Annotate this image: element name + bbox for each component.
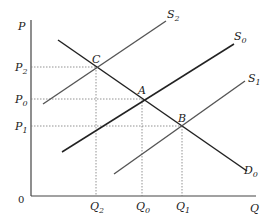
- price-label-p2: P2: [14, 61, 28, 76]
- origin-label: 0: [18, 194, 24, 205]
- point-label-a: A: [137, 84, 146, 97]
- curve-label-s2: S2: [167, 8, 180, 23]
- curve-label-d0: D0: [243, 164, 258, 179]
- x-axis-label: Q: [250, 202, 259, 215]
- quantity-label-q2: Q2: [90, 200, 104, 215]
- quantity-label-q0: Q0: [136, 200, 150, 215]
- quantity-label-q1: Q1: [176, 200, 190, 215]
- y-axis-label: P: [17, 20, 26, 33]
- demand-curve-d0: [58, 40, 247, 171]
- point-label-b: B: [177, 112, 186, 125]
- price-label-p0: P0: [14, 93, 28, 108]
- price-label-p1: P1: [14, 120, 28, 135]
- point-label-c: C: [92, 53, 101, 66]
- supply-demand-diagram: P Q 0 P2 P0 P1 Q2 Q0 Q1 S2 S0 S1 D0 C A …: [0, 0, 272, 222]
- supply-curve-s1: [114, 81, 245, 174]
- curve-label-s1: S1: [248, 72, 261, 87]
- curve-label-s0: S0: [234, 30, 247, 45]
- supply-curve-s2: [43, 21, 166, 104]
